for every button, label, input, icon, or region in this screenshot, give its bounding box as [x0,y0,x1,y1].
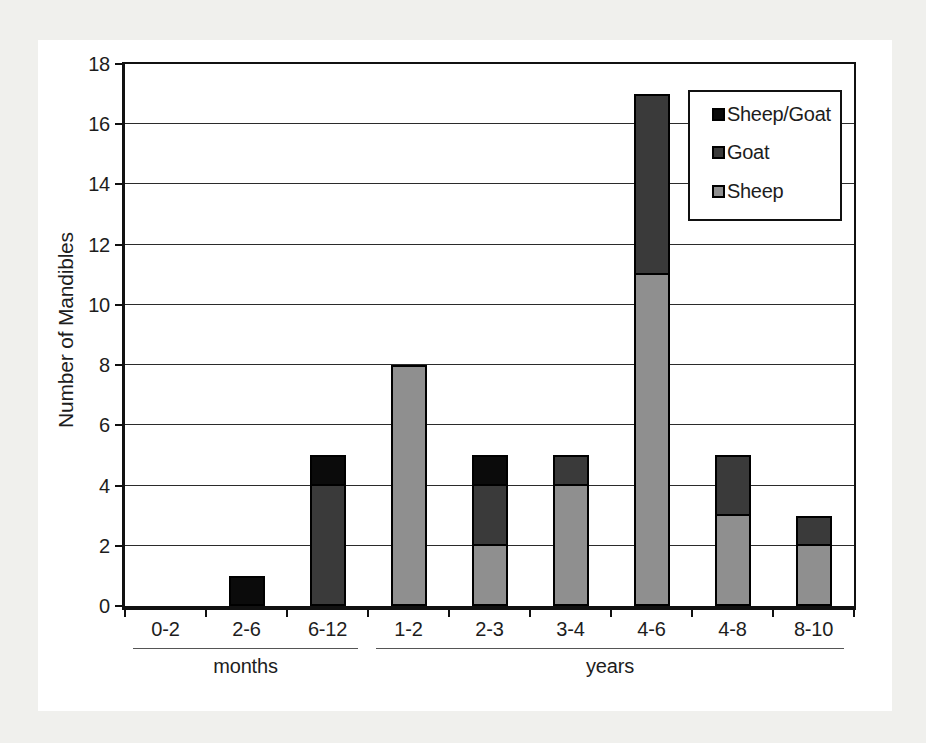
gridline [125,364,854,365]
x-category-label: 1-2 [369,618,449,641]
axis-group-label-months: months [186,655,306,678]
y-tick-label: 6 [38,414,110,436]
bar-segment-sheep-goat [310,455,346,485]
x-category-label: 8-10 [774,618,854,641]
legend: Sheep/GoatGoatSheep [688,90,842,221]
y-tick-label: 16 [38,113,110,135]
y-tick-label: 14 [38,173,110,195]
axis-group-label-years: years [550,655,670,678]
bar-4-6 [634,94,670,606]
y-tick-label: 2 [38,535,110,557]
legend-label: Sheep/Goat [727,103,831,126]
x-tick-mark [772,610,774,617]
legend-swatch-sheep-goat [712,108,725,121]
bar-4-8 [715,455,751,606]
gridline [125,424,854,425]
x-tick-mark [610,610,612,617]
y-tick-label: 10 [38,294,110,316]
y-tick-mark [115,545,122,547]
bar-segment-sheep [796,546,832,606]
bar-segment-sheep-goat [472,455,508,485]
bar-segment-sheep [634,275,670,606]
bar-1-2 [391,365,427,606]
x-tick-mark [286,610,288,617]
x-tick-mark [124,610,126,617]
bar-segment-sheep [553,486,589,606]
x-tick-mark [853,610,855,617]
y-tick-label: 18 [38,53,110,75]
x-category-label: 4-6 [612,618,692,641]
page-background: Number of Mandibles Sheep/GoatGoatSheep … [0,0,926,743]
axis-group-line-years [376,648,844,649]
y-tick-mark [115,364,122,366]
legend-entry-sheep: Sheep [712,179,836,203]
bar-segment-sheep [715,516,751,606]
legend-entry-goat: Goat [712,141,836,165]
x-category-label: 2-6 [207,618,287,641]
bar-2-6 [229,576,265,606]
x-tick-mark [529,610,531,617]
y-tick-label: 12 [38,234,110,256]
bar-segment-sheep [472,546,508,606]
x-tick-mark [448,610,450,617]
legend-entry-sheep-goat: Sheep/Goat [712,102,836,126]
x-category-label: 3-4 [531,618,611,641]
axis-group-line-months [133,648,358,649]
y-tick-label: 0 [38,595,110,617]
bar-6-12 [310,455,346,606]
gridline [125,304,854,305]
x-tick-mark [367,610,369,617]
x-category-label: 2-3 [450,618,530,641]
bar-2-3 [472,455,508,606]
x-category-label: 4-8 [693,618,773,641]
y-tick-mark [115,485,122,487]
y-tick-mark [115,123,122,125]
bar-segment-goat [796,516,832,546]
x-tick-mark [205,610,207,617]
y-tick-mark [115,424,122,426]
y-tick-mark [115,304,122,306]
x-tick-mark [691,610,693,617]
bar-segment-sheep-goat [229,576,265,606]
legend-swatch-sheep [712,185,725,198]
y-tick-mark [115,183,122,185]
legend-label: Goat [727,141,769,164]
bar-segment-goat [634,94,670,275]
x-category-label: 0-2 [126,618,206,641]
y-tick-mark [115,63,122,65]
legend-label: Sheep [727,180,783,203]
y-tick-mark [115,605,122,607]
bar-segment-sheep [391,365,427,606]
chart-panel: Number of Mandibles Sheep/GoatGoatSheep … [38,40,892,711]
gridline [125,244,854,245]
bar-segment-goat [553,455,589,485]
bar-8-10 [796,516,832,606]
bar-segment-goat [310,486,346,606]
bar-3-4 [553,455,589,606]
bar-segment-goat [472,486,508,546]
legend-swatch-goat [712,146,725,159]
x-category-label: 6-12 [288,618,368,641]
y-tick-label: 4 [38,475,110,497]
bar-segment-goat [715,455,751,515]
y-tick-label: 8 [38,354,110,376]
y-tick-mark [115,244,122,246]
